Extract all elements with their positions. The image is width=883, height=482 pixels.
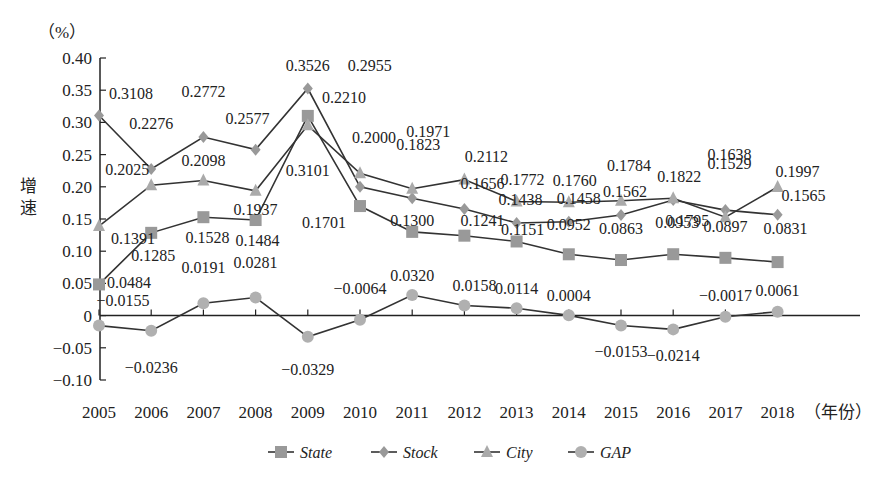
data-label: 0.1562: [603, 183, 647, 200]
data-label: 0.0114: [495, 280, 538, 297]
data-label: 0.1458: [557, 190, 601, 207]
y-axis: −0.10−0.0500.050.100.150.200.250.300.350…: [53, 49, 106, 390]
data-label: 0.2000: [352, 129, 396, 146]
data-label: 0.0897: [703, 218, 747, 235]
y-tick-label: 0.40: [62, 49, 92, 68]
legend-item-gap: GAP: [568, 444, 631, 461]
x-tick-label: 2007: [186, 403, 221, 422]
y-tick-label: 0: [84, 307, 93, 326]
data-label: −0.0153: [594, 343, 647, 360]
data-label: −0.0329: [281, 361, 334, 378]
data-label: 0.2772: [181, 83, 225, 100]
data-label: 0.2577: [226, 110, 270, 127]
y-tick-label: −0.05: [53, 339, 92, 358]
data-label: 0.1438: [499, 191, 543, 208]
data-label: 0.0191: [181, 259, 225, 276]
line-chart: （%） −0.10−0.0500.050.100.150.200.250.300…: [0, 0, 883, 482]
y-tick-label: 0.10: [62, 242, 92, 261]
x-tick-label: 2015: [604, 403, 638, 422]
legend-item-city: City: [474, 444, 534, 462]
y-tick-label: 0.30: [62, 113, 92, 132]
y-tick-label: 0.15: [62, 210, 92, 229]
x-tick-label: 2010: [343, 403, 377, 422]
x-tick-label: 2012: [447, 403, 481, 422]
data-label: 0.0158: [452, 277, 496, 294]
y-axis-label: 增速: [20, 177, 37, 218]
data-label: 0.1484: [236, 232, 280, 249]
data-label: 0.2025: [105, 161, 149, 178]
svg-text:State: State: [300, 444, 332, 461]
legend-item-stock: Stock: [371, 444, 439, 461]
x-tick-label: 2011: [396, 403, 429, 422]
data-label: 0.1772: [501, 171, 545, 188]
data-label: 0.1795: [665, 212, 709, 229]
data-label: 0.1971: [406, 123, 450, 140]
data-label: 0.1241: [460, 212, 504, 229]
x-tick-label: 2016: [656, 403, 690, 422]
data-label: −0.0155: [96, 292, 149, 309]
data-label: 0.2955: [348, 57, 392, 74]
data-label: 0.0004: [547, 287, 591, 304]
data-label: 0.2276: [129, 115, 173, 132]
data-label: 0.1285: [131, 247, 175, 264]
data-label: 0.2098: [181, 152, 225, 169]
data-label: 0.1997: [776, 163, 820, 180]
data-label: −0.0236: [125, 359, 178, 376]
data-label: −0.0017: [699, 287, 752, 304]
svg-text:增: 增: [20, 177, 37, 196]
x-tick-label: 2005: [82, 403, 116, 422]
data-label: 0.1937: [234, 201, 278, 218]
data-label: 0.0320: [390, 267, 434, 284]
x-unit-label: （年份）: [804, 403, 872, 422]
data-label: −0.0064: [333, 280, 386, 297]
data-label: 0.1760: [553, 172, 597, 189]
data-label: 0.1701: [302, 214, 346, 231]
svg-text:速: 速: [20, 199, 37, 218]
data-label: 0.1822: [657, 168, 701, 185]
data-label: 0.1784: [607, 157, 651, 174]
y-tick-label: 0.35: [62, 81, 92, 100]
legend-item-state: State: [268, 444, 332, 461]
data-label: 0.0281: [234, 254, 278, 271]
data-label: 0.1300: [390, 212, 434, 229]
y-tick-label: 0.25: [62, 146, 92, 165]
x-axis: 2005200620072008200920102011201220132014…: [82, 310, 872, 422]
data-label: 0.1656: [460, 175, 504, 192]
data-label: 0.2112: [465, 148, 508, 165]
y-tick-label: −0.10: [53, 371, 92, 390]
y-tick-label: 0.20: [62, 178, 92, 197]
x-tick-label: 2009: [291, 403, 325, 422]
data-label: 0.1391: [111, 230, 155, 247]
x-tick-label: 2018: [761, 403, 795, 422]
x-tick-label: 2014: [552, 403, 587, 422]
data-label: 0.0863: [599, 220, 643, 237]
x-tick-label: 2008: [239, 403, 273, 422]
legend: StateStockCityGAP: [268, 444, 631, 462]
x-tick-label: 2006: [134, 403, 168, 422]
data-label: 0.0061: [756, 282, 800, 299]
data-label: 0.1529: [707, 155, 751, 172]
y-unit-label: （%）: [38, 23, 86, 42]
data-label: 0.2210: [322, 89, 366, 106]
data-label: 0.1151: [501, 221, 544, 238]
data-label: −0.0214: [647, 347, 700, 364]
data-label: 0.0484: [107, 274, 151, 291]
svg-text:Stock: Stock: [403, 444, 439, 461]
svg-text:GAP: GAP: [600, 444, 631, 461]
data-label: 0.1565: [782, 187, 826, 204]
y-tick-label: 0.05: [62, 274, 92, 293]
data-label: 0.3108: [109, 85, 153, 102]
x-tick-label: 2017: [708, 403, 743, 422]
svg-text:City: City: [506, 444, 534, 462]
x-tick-label: 2013: [500, 403, 534, 422]
data-label: 0.0831: [764, 220, 808, 237]
data-label: 0.3526: [286, 57, 330, 74]
data-label: 0.0952: [547, 216, 591, 233]
data-label: 0.3101: [286, 162, 330, 179]
data-label: 0.1528: [185, 229, 229, 246]
